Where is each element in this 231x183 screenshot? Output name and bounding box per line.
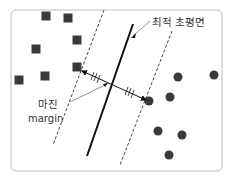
circle-point xyxy=(145,97,154,106)
square-point xyxy=(42,12,51,21)
square-point xyxy=(64,14,73,23)
square-point xyxy=(15,76,24,85)
square-point xyxy=(32,45,41,54)
circle-point xyxy=(178,131,187,140)
square-point xyxy=(73,63,82,72)
hyperplane-label: 최적 초평면 xyxy=(152,16,205,28)
margin-label-english: margin xyxy=(28,113,63,124)
circle-point xyxy=(154,127,163,136)
diagram-frame xyxy=(11,10,222,171)
circle-point xyxy=(166,93,175,102)
circle-point xyxy=(165,151,174,160)
square-point xyxy=(41,72,50,81)
circle-point xyxy=(174,73,183,82)
square-point xyxy=(73,36,82,45)
circle-point xyxy=(210,71,219,80)
margin-label-korean: 마진 xyxy=(38,98,58,110)
svm-diagram: 최적 초평면 마진 margin xyxy=(0,0,231,183)
